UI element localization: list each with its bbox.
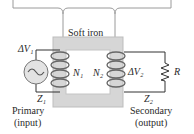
soft-iron-core <box>53 37 123 107</box>
load-resistor-label: R <box>174 67 180 77</box>
primary-label: Primary <box>12 106 44 116</box>
secondary-label: Secondary <box>130 106 172 116</box>
primary-voltage-label: ΔV₁ <box>18 44 33 54</box>
secondary-turns-label: N₂ <box>93 68 103 78</box>
core-label: Soft iron <box>68 28 103 38</box>
secondary-sublabel: (output) <box>135 118 167 128</box>
resistor-icon <box>161 63 169 81</box>
secondary-impedance-label: Z₂ <box>144 94 153 104</box>
secondary-voltage-label: ΔV₂ <box>128 67 143 77</box>
primary-turns-label: N₁ <box>73 68 83 78</box>
primary-impedance-label: Z₁ <box>37 94 46 104</box>
ac-source-icon <box>24 60 48 84</box>
primary-sublabel: (input) <box>14 118 41 128</box>
